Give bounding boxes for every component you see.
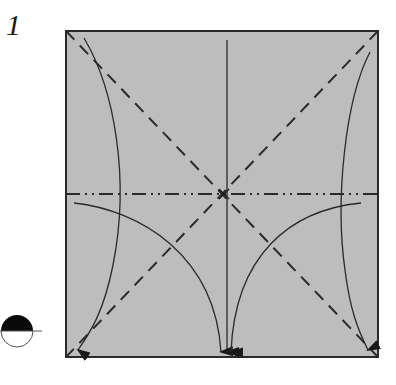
origami-diagram: [0, 0, 396, 385]
half-circle-view-icon: [0, 315, 42, 347]
